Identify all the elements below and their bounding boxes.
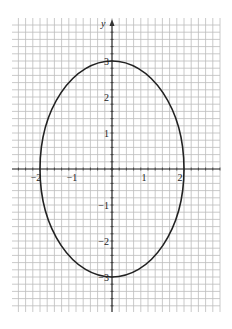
grid-lines — [12, 18, 220, 312]
x-tick-label: 2 — [178, 172, 183, 183]
y-tick-label: −1 — [98, 200, 109, 211]
x-tick-label: 1 — [142, 172, 147, 183]
y-axis-arrow-icon — [110, 19, 115, 26]
y-tick-label: 2 — [104, 92, 109, 103]
ellipse-chart: −2−112321−1−2−3 y — [0, 0, 232, 329]
axes — [12, 19, 220, 312]
y-axis-label: y — [100, 18, 106, 29]
y-tick-label: −2 — [98, 236, 109, 247]
x-tick-label: −1 — [67, 172, 78, 183]
y-tick-label: 1 — [104, 128, 109, 139]
